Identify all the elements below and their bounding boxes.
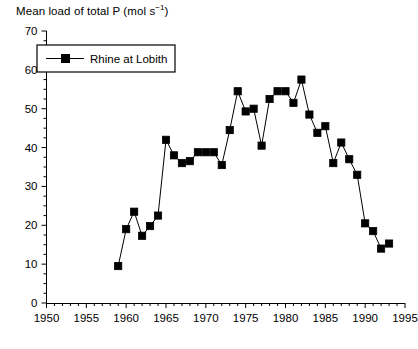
y-tick-label: 30 (25, 180, 38, 192)
data-point-marker (131, 208, 138, 215)
data-point-marker (123, 226, 130, 233)
y-tick-label: 70 (25, 25, 38, 37)
data-point-marker (385, 240, 392, 247)
x-tick-label: 1995 (392, 312, 418, 324)
y-tick-label-group: 010203040506070 (25, 25, 38, 309)
data-point-marker (218, 161, 225, 168)
legend: Rhine at Lobith (37, 45, 175, 72)
data-markers-rhine-at-lobith (115, 76, 393, 270)
data-point-marker (282, 88, 289, 95)
data-point-marker (226, 126, 233, 133)
data-point-marker (258, 142, 265, 149)
x-tick-label: 1955 (74, 312, 100, 324)
data-point-marker (139, 232, 146, 239)
data-point-marker (274, 88, 281, 95)
data-point-marker (234, 88, 241, 95)
y-tick-label: 60 (25, 64, 38, 76)
data-point-marker (354, 171, 361, 178)
y-tick-label: 20 (25, 219, 38, 231)
legend-marker-sample (61, 54, 70, 63)
data-point-marker (154, 212, 161, 219)
data-point-marker (330, 160, 337, 167)
data-point-marker (306, 111, 313, 118)
plot-canvas: 010203040506070 195019551960196519701975… (0, 0, 418, 349)
data-point-marker (162, 136, 169, 143)
data-point-marker (242, 108, 249, 115)
data-point-marker (194, 149, 201, 156)
chart-figure: Mean load of total P (mol s−1) 010203040… (0, 0, 418, 349)
y-tick-label: 0 (31, 297, 37, 309)
data-point-marker (186, 158, 193, 165)
y-tick-label: 50 (25, 103, 38, 115)
data-point-marker (378, 245, 385, 252)
data-point-marker (146, 222, 153, 229)
data-point-marker (322, 123, 329, 130)
data-point-marker (170, 152, 177, 159)
x-tick-label: 1990 (352, 312, 378, 324)
legend-label-rhine-at-lobith: Rhine at Lobith (90, 53, 167, 65)
data-point-marker (178, 160, 185, 167)
data-point-marker (346, 156, 353, 163)
x-tick-label: 1975 (233, 312, 259, 324)
x-tick-label: 1950 (34, 312, 60, 324)
x-tick-label-group: 1950195519601965197019751980198519901995 (34, 312, 418, 324)
data-point-marker (115, 262, 122, 269)
data-point-marker (266, 95, 273, 102)
data-point-marker (290, 99, 297, 106)
data-point-marker (202, 149, 209, 156)
x-tick-label: 1970 (193, 312, 219, 324)
x-tick-label: 1960 (113, 312, 139, 324)
data-point-marker (250, 105, 257, 112)
data-point-marker (338, 139, 345, 146)
x-tick-label: 1965 (153, 312, 179, 324)
data-point-marker (314, 129, 321, 136)
y-tick-label: 10 (25, 258, 38, 270)
data-point-marker (370, 228, 377, 235)
data-point-marker (362, 220, 369, 227)
data-point-marker (298, 76, 305, 83)
x-tick-label: 1985 (313, 312, 339, 324)
data-point-marker (210, 149, 217, 156)
x-tick-label: 1980 (273, 312, 299, 324)
y-tick-label: 40 (25, 142, 38, 154)
